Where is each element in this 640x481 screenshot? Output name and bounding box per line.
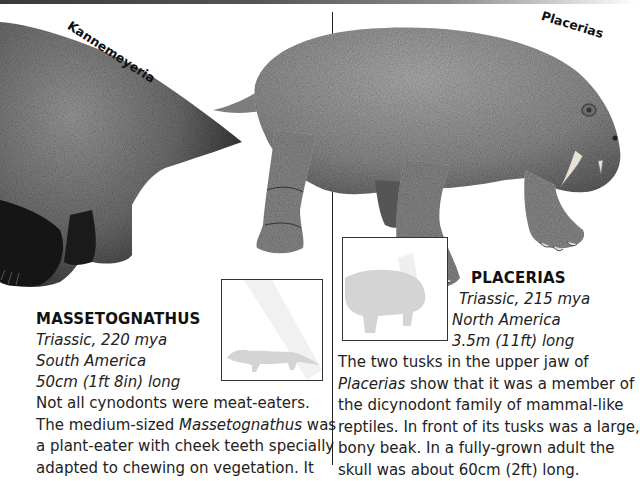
massetognathus-scale-box	[221, 279, 323, 381]
massetognathus-location: South America	[36, 351, 146, 372]
description-line: The two tusks in the upper jaw of	[338, 352, 640, 374]
description-line: adapted to chewing on vegetation. It	[36, 458, 336, 480]
description-line: skull was about 60cm (2ft) long.	[338, 460, 640, 481]
placerias-description: The two tusks in the upper jaw of Placer…	[338, 352, 640, 481]
massetognathus-size: 50cm (1ft 8in) long	[36, 372, 180, 393]
placerias-scale-box	[342, 237, 448, 341]
placerias-size: 3.5m (11ft) long	[452, 331, 574, 352]
description-line: reptiles. In front of its tusks was a la…	[338, 417, 640, 439]
description-line: Placerias show that it was a member of	[338, 374, 640, 396]
description-line: The medium-sized Massetognathus was	[36, 415, 336, 437]
placerias-silhouette-icon	[343, 238, 447, 340]
description-line: Not all cynodonts were meat-eaters.	[36, 393, 336, 415]
massetognathus-description: Not all cynodonts were meat-eaters. The …	[36, 393, 336, 479]
placerias-heading: PLACERIAS	[471, 269, 566, 287]
placerias-period: Triassic, 215 mya	[459, 289, 590, 310]
massetognathus-heading: MASSETOGNATHUS	[36, 310, 201, 328]
massetognathus-period: Triassic, 220 mya	[36, 330, 167, 351]
description-line: bony beak. In a fully-grown adult the	[338, 438, 640, 460]
description-line: the dicynodont family of mammal-like	[338, 395, 640, 417]
massetognathus-silhouette-icon	[222, 280, 322, 380]
placerias-location: North America	[452, 310, 561, 331]
description-line: a plant-eater with cheek teeth specially	[36, 436, 336, 458]
